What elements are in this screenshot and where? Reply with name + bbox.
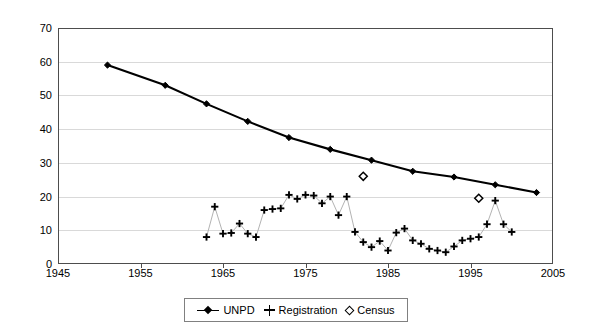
x-tick-label: 1995: [441, 268, 501, 279]
y-tick-label: 50: [22, 90, 52, 101]
legend-label-unpd: UNPD: [223, 305, 254, 316]
x-tick-mark: [141, 264, 142, 268]
x-tick-label: 1945: [28, 268, 88, 279]
legend-label-registration: Registration: [279, 305, 338, 316]
legend-label-census: Census: [357, 305, 394, 316]
x-tick-label: 1955: [111, 268, 171, 279]
chart-container: 010203040506070 194519551965197519851995…: [0, 0, 591, 334]
y-tick-label: 60: [22, 57, 52, 68]
x-tick-mark: [471, 264, 472, 268]
plus-icon: [264, 305, 275, 316]
y-tick-label: 30: [22, 158, 52, 169]
y-tick-label: 10: [22, 225, 52, 236]
x-tick-label: 1985: [358, 268, 418, 279]
gridline: [59, 129, 552, 130]
x-tick-mark: [306, 264, 307, 268]
gridline: [59, 197, 552, 198]
x-tick-label: 1975: [276, 268, 336, 279]
gridline: [59, 163, 552, 164]
x-tick-label: 1965: [193, 268, 253, 279]
x-tick-label: 2005: [523, 268, 583, 279]
x-tick-mark: [223, 264, 224, 268]
chart-legend: UNPD Registration Census: [184, 298, 408, 322]
open-diamond-icon: [345, 305, 355, 315]
y-tick-label: 40: [22, 124, 52, 135]
legend-item-registration: Registration: [264, 305, 338, 316]
gridline: [59, 230, 552, 231]
x-tick-mark: [388, 264, 389, 268]
legend-item-census: Census: [346, 305, 394, 316]
plot-area: [58, 28, 553, 264]
y-tick-label: 70: [22, 23, 52, 34]
y-tick-label: 20: [22, 192, 52, 203]
legend-item-unpd: UNPD: [197, 305, 254, 316]
gridline: [59, 95, 552, 96]
gridline: [59, 62, 552, 63]
line-diamond-icon: [197, 305, 219, 316]
